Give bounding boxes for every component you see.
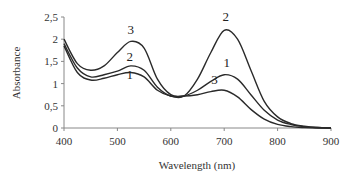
x-tick-label: 800 <box>269 135 286 147</box>
y-axis: 00,511,522,5 <box>44 11 64 134</box>
y-tick-label: 1 <box>53 78 59 90</box>
x-axis: 400500600700800900 <box>56 128 340 147</box>
y-tick-label: 0,5 <box>44 100 58 112</box>
x-tick-label: 700 <box>216 135 233 147</box>
curve-label: 2 <box>223 9 230 24</box>
curve-3 <box>64 39 331 128</box>
x-tick-label: 600 <box>163 135 180 147</box>
absorbance-chart: 00,511,522,5 400500600700800900 321213 A… <box>0 0 358 184</box>
y-tick-label: 1,5 <box>44 55 58 67</box>
curve-label: 2 <box>126 49 133 64</box>
y-tick-label: 0 <box>53 122 59 134</box>
absorbance-curves <box>64 30 331 128</box>
curve-label: 1 <box>126 67 133 82</box>
curve-label: 1 <box>224 55 231 70</box>
x-tick-label: 500 <box>109 135 126 147</box>
curve-1 <box>64 46 331 128</box>
x-tick-label: 900 <box>323 135 340 147</box>
curve-label: 3 <box>211 72 218 87</box>
y-tick-label: 2 <box>53 33 59 45</box>
y-tick-label: 2,5 <box>44 11 58 23</box>
curve-label: 3 <box>128 22 135 37</box>
x-axis-title: Wavelength (nm) <box>159 159 236 172</box>
y-axis-title: Absorbance <box>10 47 22 100</box>
x-tick-label: 400 <box>56 135 73 147</box>
